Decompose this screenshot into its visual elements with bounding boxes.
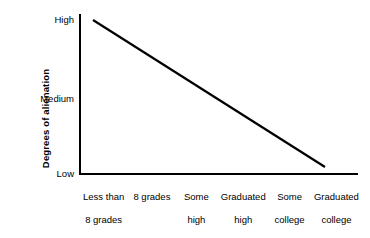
x-category-5-line2: college <box>311 214 362 226</box>
data-line <box>79 14 358 175</box>
x-category-label-4: Some college <box>269 179 310 237</box>
x-axis-category-labels: Less than 8 grades 8 grades Some high sc… <box>79 179 363 235</box>
x-category-0-line1: Less than <box>80 191 127 203</box>
x-category-3-line2: high <box>218 214 268 226</box>
x-category-1-line1: 8 grades <box>129 191 174 203</box>
x-category-4-line2: college <box>270 214 309 226</box>
x-category-3-line1: Graduated <box>218 191 268 203</box>
x-category-label-0: Less than 8 grades <box>79 179 128 237</box>
x-category-4-line1: Some <box>270 191 309 203</box>
x-category-label-2: Some high school <box>176 179 218 237</box>
plot-area <box>79 14 358 175</box>
y-tick-label-low: Low <box>24 168 74 179</box>
x-category-2-line3: school <box>177 237 217 238</box>
y-tick-label-high: High <box>24 14 74 25</box>
y-tick-label-medium: Medium <box>24 93 74 104</box>
alienation-education-chart: Degrees of alienation High Medium Low Le… <box>0 0 370 237</box>
y-axis-tick-labels: High Medium Low <box>24 0 74 237</box>
trend-line-segment <box>93 20 325 167</box>
x-category-2-line1: Some <box>177 191 217 203</box>
x-category-2-line2: high <box>177 214 217 226</box>
x-category-5-line1: Graduated <box>311 191 362 203</box>
x-category-label-1: 8 grades <box>128 179 175 214</box>
x-category-label-5: Graduated college <box>310 179 363 237</box>
x-category-0-line2: 8 grades <box>80 214 127 226</box>
x-category-3-line3: school <box>218 237 268 238</box>
x-category-label-3: Graduated high school <box>217 179 269 237</box>
